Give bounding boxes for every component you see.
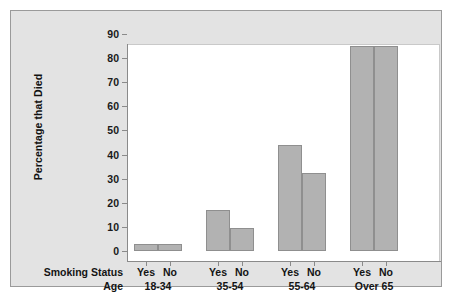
y-tick-mark: [122, 227, 127, 228]
y-tick-label-wrap: 50: [91, 125, 119, 136]
x-group-label: 35-54: [200, 281, 260, 292]
row-label-smoking-status: Smoking Status: [29, 267, 123, 278]
bar: [206, 210, 230, 251]
y-tick-label: 10: [93, 222, 119, 233]
y-tick-label-wrap: 40: [91, 150, 119, 161]
y-tick-label: 40: [93, 150, 119, 161]
y-axis-line: [127, 44, 128, 262]
bar: [158, 244, 182, 251]
y-tick-mark: [122, 34, 127, 35]
chart-panel: Percentage that Died 0102030405060708090…: [10, 10, 442, 287]
bar: [278, 145, 302, 251]
y-tick-mark: [122, 58, 127, 59]
x-subcategory-label: No: [222, 267, 262, 278]
y-tick-label-wrap: 60: [91, 101, 119, 112]
y-tick-label-wrap: 0: [91, 246, 119, 257]
y-tick-label-wrap: 70: [91, 77, 119, 88]
y-tick-mark: [122, 82, 127, 83]
y-tick-label-wrap: 20: [91, 198, 119, 209]
y-tick-mark: [122, 203, 127, 204]
bar: [302, 173, 326, 251]
y-tick-label-wrap: 90: [91, 29, 119, 40]
y-tick-mark: [122, 179, 127, 180]
y-tick-label: 50: [93, 125, 119, 136]
y-axis-title: Percentage that Died: [32, 67, 44, 187]
x-subcategory-label: No: [150, 267, 190, 278]
y-tick-mark: [122, 130, 127, 131]
y-tick-label-wrap: 80: [91, 53, 119, 64]
bar: [374, 46, 398, 251]
bar: [230, 228, 254, 251]
x-group-label: 55-64: [272, 281, 332, 292]
y-tick-label: 70: [93, 77, 119, 88]
x-axis-line: [127, 261, 441, 262]
y-tick-label-wrap: 30: [91, 174, 119, 185]
x-subcategory-label: No: [366, 267, 406, 278]
y-tick-label: 0: [93, 246, 119, 257]
chart-figure: Percentage that Died 0102030405060708090…: [0, 0, 456, 299]
y-tick-label: 20: [93, 198, 119, 209]
y-tick-label: 80: [93, 53, 119, 64]
bar: [350, 46, 374, 251]
y-tick-mark: [122, 106, 127, 107]
x-subcategory-label: No: [294, 267, 334, 278]
bar: [134, 244, 158, 251]
y-tick-mark: [122, 251, 127, 252]
y-tick-mark: [122, 155, 127, 156]
row-label-age: Age: [29, 281, 123, 292]
x-group-label: Over 65: [344, 281, 404, 292]
y-tick-label-wrap: 10: [91, 222, 119, 233]
y-tick-label: 30: [93, 174, 119, 185]
x-group-label: 18-34: [128, 281, 188, 292]
y-tick-label: 60: [93, 101, 119, 112]
y-tick-label: 90: [93, 29, 119, 40]
